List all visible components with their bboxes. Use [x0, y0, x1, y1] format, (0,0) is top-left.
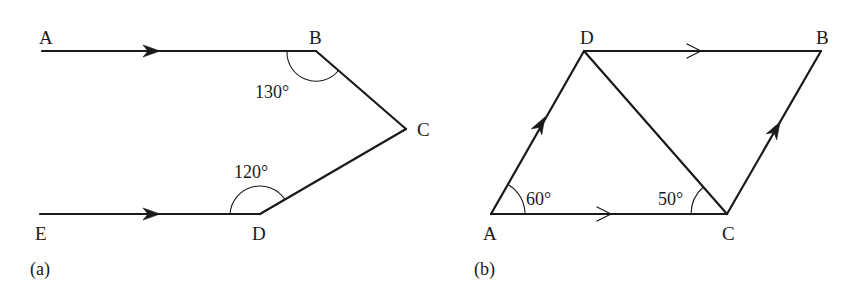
angle-arc-C: [691, 187, 703, 214]
point-label-B: B: [816, 27, 829, 48]
angle-arc-B: [287, 51, 339, 81]
point-label-A: A: [39, 27, 53, 48]
point-label-E: E: [35, 223, 47, 244]
geometry-figures: A B C D E 130° 120° (a) D B A: [0, 0, 841, 296]
figure-caption-b: (b): [474, 259, 495, 280]
point-label-C: C: [722, 223, 735, 244]
point-label-A: A: [483, 223, 497, 244]
diagram-stage: A B C D E 130° 120° (a) D B A: [0, 0, 841, 296]
filled-arrow-icon: [766, 119, 785, 140]
point-label-D: D: [252, 223, 266, 244]
segment-a-CD: [260, 129, 406, 214]
angle-label-B: 130°: [255, 82, 289, 102]
point-label-D: D: [580, 27, 594, 48]
angle-label-D: 120°: [234, 162, 268, 182]
figure-a: A B C D E 130° 120° (a): [30, 27, 430, 280]
point-label-C: C: [417, 119, 430, 140]
segment-a-BC: [316, 51, 406, 129]
segment-b-DC: [584, 51, 727, 214]
angle-label-C: 50°: [658, 189, 683, 209]
angle-label-A: 60°: [526, 189, 551, 209]
point-label-B: B: [309, 27, 322, 48]
angle-arc-A: [508, 185, 525, 215]
figure-b: D B A C 60° 50° (b): [474, 27, 829, 280]
figure-caption-a: (a): [30, 259, 50, 280]
angle-arc-D: [230, 186, 285, 214]
